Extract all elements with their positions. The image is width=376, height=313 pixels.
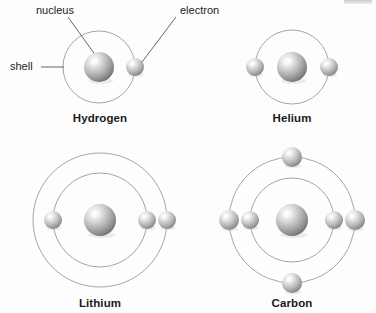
nucleus-hydrogen — [84, 52, 114, 84]
electron-helium-s1-e2 — [320, 58, 338, 77]
electron-lithium-s2-e1 — [158, 211, 176, 230]
atom-diagram-canvas — [0, 0, 376, 313]
atom-label-hydrogen: Hydrogen — [73, 112, 127, 124]
callout-label-nucleus: nucleus — [36, 4, 74, 16]
electron-helium-s1-e1 — [246, 58, 264, 77]
nucleus-carbon — [276, 204, 308, 238]
leader-line-electron — [139, 17, 176, 66]
electron-carbon-s2-e2 — [345, 210, 365, 231]
callout-label-shell: shell — [10, 60, 33, 72]
nucleus-carbon-body — [276, 204, 308, 236]
nucleus-lithium — [84, 204, 116, 238]
electron-carbon-s2-e4-body — [282, 273, 302, 293]
electron-lithium-s1-e1 — [44, 211, 62, 230]
electron-carbon-s1-e2 — [325, 211, 343, 230]
electron-carbon-s2-e1 — [219, 210, 239, 231]
atom-label-helium: Helium — [273, 112, 312, 124]
electron-carbon-s1-e1-body — [241, 211, 259, 229]
nucleus-lithium-body — [84, 204, 116, 236]
nucleus-helium — [277, 52, 307, 84]
electron-carbon-s2-e4 — [282, 273, 302, 294]
atom-diagram-figure: HydrogenHeliumLithiumCarbonnucleuselectr… — [0, 0, 376, 313]
electron-carbon-s1-e2-body — [325, 211, 343, 229]
electron-carbon-s2-e3-body — [282, 147, 302, 167]
electron-helium-s1-e1-body — [246, 58, 264, 76]
electron-hydrogen-s1-e1 — [126, 58, 144, 77]
electron-lithium-s1-e2 — [138, 211, 156, 230]
electron-helium-s1-e2-body — [320, 58, 338, 76]
callout-label-electron: electron — [180, 4, 219, 16]
electron-carbon-s2-e1-body — [219, 210, 239, 230]
electron-carbon-s1-e1 — [241, 211, 259, 230]
electron-carbon-s2-e3 — [282, 147, 302, 168]
nucleus-hydrogen-body — [84, 52, 114, 82]
electron-lithium-s2-e1-body — [158, 211, 176, 229]
particles-layer — [44, 52, 365, 294]
atom-label-lithium: Lithium — [79, 297, 121, 309]
electron-carbon-s2-e2-body — [345, 210, 365, 230]
electron-lithium-s1-e1-body — [44, 211, 62, 229]
electron-hydrogen-s1-e1-body — [126, 58, 144, 76]
nucleus-helium-body — [277, 52, 307, 82]
electron-lithium-s1-e2-body — [138, 211, 156, 229]
atom-label-carbon: Carbon — [272, 297, 313, 309]
